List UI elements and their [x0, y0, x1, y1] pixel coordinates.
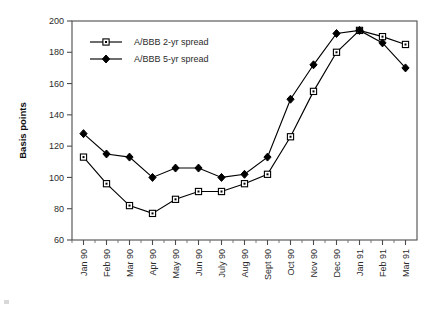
marker-center-dot — [313, 90, 315, 92]
x-tick-label: Jun 90 — [194, 249, 204, 276]
series-1 — [80, 27, 408, 216]
x-tick-label: Aug 90 — [240, 249, 250, 278]
x-tick-label: Feb 90 — [102, 249, 112, 277]
x-tick-label: Sept 90 — [263, 249, 273, 280]
chart-container: 6080100120140160180200Basis pointsJan 90… — [0, 0, 442, 312]
x-tick-label: July 90 — [217, 249, 227, 278]
legend-entry: A/BBB 5-yr spread — [90, 54, 209, 64]
x-tick-label: Oct 90 — [286, 249, 296, 276]
series-2 — [80, 26, 409, 181]
x-tick-label: Mar 90 — [125, 249, 135, 277]
legend-label: A/BBB 2-yr spread — [134, 37, 209, 47]
y-tick-label: 80 — [54, 204, 64, 214]
marker-center-dot — [336, 51, 338, 53]
x-tick-label: Apr 90 — [148, 249, 158, 276]
marker-center-dot — [382, 36, 384, 38]
y-axis: 6080100120140160180200 — [49, 16, 72, 245]
x-tick-label: Jan 90 — [79, 249, 89, 276]
marker-filled-diamond — [195, 164, 202, 172]
y-tick-label: 120 — [49, 141, 64, 151]
y-tick-label: 140 — [49, 110, 64, 120]
marker-center-dot — [267, 173, 269, 175]
marker-filled-diamond — [102, 55, 109, 63]
x-axis: Jan 90Feb 90Mar 90Apr 90May 90Jun 90July… — [72, 240, 411, 280]
legend-entry: A/BBB 2-yr spread — [90, 37, 209, 47]
y-tick-label: 60 — [54, 235, 64, 245]
line-chart: 6080100120140160180200Basis pointsJan 90… — [0, 0, 442, 312]
scan-artifact — [4, 300, 9, 304]
x-tick-label: Jan 91 — [355, 249, 365, 276]
marker-center-dot — [129, 205, 131, 207]
marker-filled-diamond — [172, 164, 179, 172]
marker-center-dot — [221, 191, 223, 193]
y-tick-label: 160 — [49, 79, 64, 89]
marker-filled-diamond — [264, 153, 271, 161]
y-tick-label: 180 — [49, 47, 64, 57]
y-tick-label: 100 — [49, 173, 64, 183]
x-tick-label: Feb 91 — [378, 249, 388, 277]
y-tick-label: 200 — [49, 16, 64, 26]
legend: A/BBB 2-yr spreadA/BBB 5-yr spread — [90, 37, 209, 64]
x-tick-label: Dec 90 — [332, 249, 342, 278]
y-axis-title-group: Basis points — [17, 102, 28, 159]
marker-filled-diamond — [218, 173, 225, 181]
marker-center-dot — [83, 156, 85, 158]
plot-frame — [72, 21, 417, 240]
x-tick-label: Nov 90 — [309, 249, 319, 278]
y-axis-title: Basis points — [17, 102, 28, 159]
marker-center-dot — [152, 212, 154, 214]
marker-center-dot — [405, 43, 407, 45]
legend-label: A/BBB 5-yr spread — [134, 54, 209, 64]
marker-center-dot — [105, 41, 107, 43]
marker-center-dot — [106, 183, 108, 185]
marker-center-dot — [175, 198, 177, 200]
marker-center-dot — [198, 191, 200, 193]
marker-center-dot — [290, 136, 292, 138]
marker-filled-diamond — [241, 170, 248, 178]
x-tick-label: May 90 — [171, 249, 181, 279]
marker-center-dot — [244, 183, 246, 185]
x-tick-label: Mar 91 — [401, 249, 411, 277]
